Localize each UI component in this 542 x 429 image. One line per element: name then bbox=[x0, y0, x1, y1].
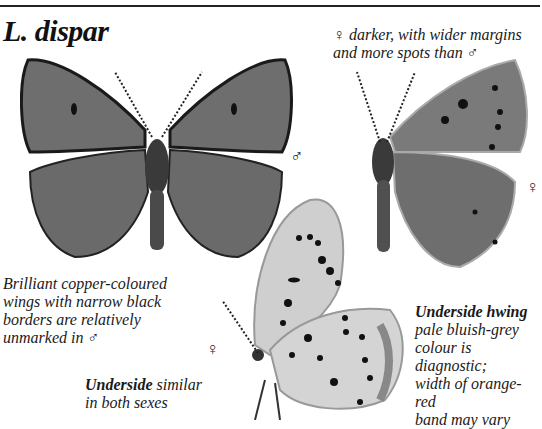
female-note-line1: ♀ darker, with wider margins bbox=[333, 26, 522, 44]
underside-note-line2: in both sexes bbox=[85, 394, 202, 412]
hwing-note-bold: Underside hwing bbox=[415, 303, 527, 320]
female-symbol-underside: ♀ bbox=[206, 339, 220, 360]
male-symbol: ♂ bbox=[290, 146, 304, 167]
underside-note: Underside similar in both sexes bbox=[85, 376, 202, 412]
underside-note-rest: similar bbox=[153, 376, 202, 393]
hwing-note: Underside hwing pale bluish-grey colour … bbox=[415, 303, 542, 429]
male-note-line1: Brilliant copper-coloured bbox=[3, 275, 167, 293]
male-note-line4: unmarked in ♂ bbox=[3, 329, 167, 347]
underside-note-bold: Underside bbox=[85, 376, 153, 393]
male-note: Brilliant copper-coloured wings with nar… bbox=[3, 275, 167, 347]
underside-note-line1: Underside similar bbox=[85, 376, 202, 394]
female-symbol-upper: ♀ bbox=[526, 177, 540, 198]
male-note-line3: borders are relatively bbox=[3, 311, 167, 329]
hwing-note-line3: colour is diagnostic; bbox=[415, 339, 542, 375]
male-note-line2: wings with narrow black bbox=[3, 293, 167, 311]
species-title: L. dispar bbox=[3, 14, 109, 48]
top-rule bbox=[0, 5, 540, 7]
hwing-note-line1: Underside hwing bbox=[415, 303, 542, 321]
hwing-note-line4: width of orange-red bbox=[415, 375, 542, 411]
underside-illustration bbox=[210, 195, 420, 420]
hwing-note-line5: band may vary bbox=[415, 411, 542, 429]
hwing-note-line2: pale bluish-grey bbox=[415, 321, 542, 339]
